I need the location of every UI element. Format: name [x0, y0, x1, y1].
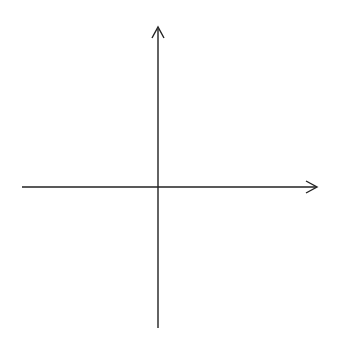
- coordinate-plane: [0, 0, 343, 349]
